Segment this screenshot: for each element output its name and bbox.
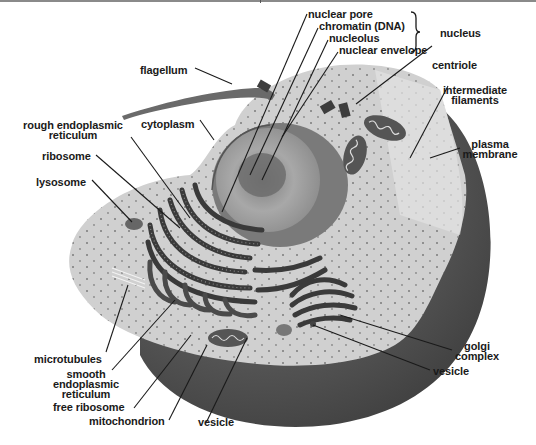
label-lysosome: lysosome bbox=[36, 177, 86, 187]
label-nuclear-pore: nuclear pore bbox=[308, 9, 373, 19]
nucleolus bbox=[238, 153, 286, 197]
label-nucleolus: nucleolus bbox=[329, 33, 379, 43]
label-plasma-membrane: plasma membrane bbox=[460, 139, 520, 159]
label-golgi-complex: golgi complex bbox=[452, 341, 502, 361]
label-microtubules: microtubules bbox=[34, 354, 102, 364]
label-nucleus: nucleus bbox=[440, 28, 481, 38]
label-chromatin: chromatin (DNA) bbox=[319, 21, 405, 31]
label-centriole: centriole bbox=[432, 60, 477, 70]
label-mitochondrion: mitochondrion bbox=[89, 416, 165, 426]
vesicle bbox=[276, 324, 292, 336]
label-flagellum: flagellum bbox=[140, 65, 187, 75]
label-vesicle-golgi: vesicle bbox=[433, 366, 469, 376]
lysosome bbox=[125, 218, 143, 230]
label-intermediate-filaments: intermediate filaments bbox=[440, 85, 510, 105]
label-ribosome: ribosome bbox=[42, 151, 91, 161]
label-cytoplasm: cytoplasm bbox=[141, 119, 195, 129]
label-vesicle-bottom: vesicle bbox=[198, 417, 234, 427]
label-rough-er: rough endoplasmic reticulum bbox=[18, 120, 128, 140]
label-smooth-er: smooth endoplasmic reticulum bbox=[48, 369, 124, 399]
label-nuclear-envelope: nuclear envelope bbox=[339, 45, 427, 55]
label-free-ribosome: free ribosome bbox=[53, 402, 124, 412]
